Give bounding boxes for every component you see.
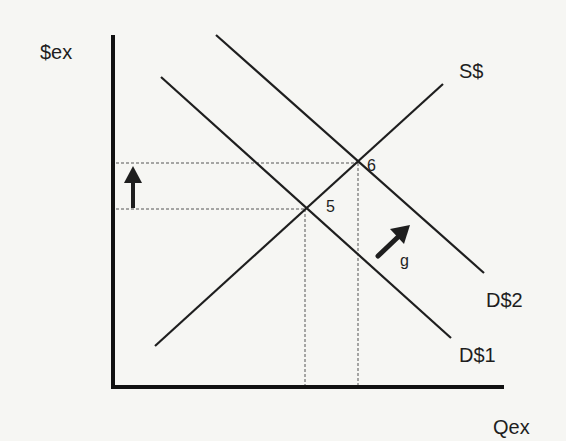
equilibrium-6-label: 6 bbox=[367, 157, 376, 174]
y-axis-label: $ex bbox=[40, 41, 72, 63]
equilibrium-5-label: 5 bbox=[326, 198, 335, 215]
supply-label: S$ bbox=[459, 60, 483, 82]
demand-2-label: D$2 bbox=[486, 289, 523, 311]
x-axis-label: Qex bbox=[493, 416, 530, 438]
up-arrow-icon bbox=[124, 166, 142, 208]
shift-label: g bbox=[400, 252, 409, 269]
supply-curve bbox=[155, 84, 443, 346]
demand-curve-2 bbox=[216, 35, 484, 273]
supply-demand-diagram: $ex Qex S$ D$2 D$1 5 6 g bbox=[0, 0, 566, 441]
guide-lines bbox=[116, 163, 358, 385]
demand-1-label: D$1 bbox=[459, 344, 496, 366]
